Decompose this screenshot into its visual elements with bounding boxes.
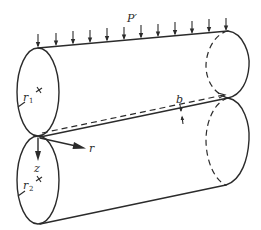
bottom-cylinder-right-face-visible bbox=[226, 98, 249, 185]
bottom-cylinder bbox=[17, 98, 249, 224]
bottom-cylinder-bottom-edge bbox=[40, 185, 226, 224]
load-arrow bbox=[122, 27, 126, 40]
load-arrow bbox=[105, 28, 109, 42]
r1-center-cross-b bbox=[37, 87, 41, 93]
top-cylinder-right-face-hidden bbox=[206, 31, 228, 98]
coordinate-axes: z r bbox=[33, 138, 95, 175]
load-arrow bbox=[190, 21, 194, 34]
contact-line bbox=[40, 98, 228, 137]
label-load: P′ bbox=[126, 12, 137, 25]
radius-r1-marker: r 1 bbox=[18, 87, 42, 107]
load-arrow bbox=[173, 22, 177, 36]
load-arrow bbox=[156, 24, 160, 37]
z-axis-arrowhead bbox=[35, 151, 41, 161]
r-axis-line bbox=[40, 138, 76, 146]
top-cylinder-right-face-visible bbox=[228, 31, 249, 98]
label-b: b bbox=[176, 93, 183, 106]
load-arrow bbox=[139, 25, 143, 39]
label-r: r bbox=[89, 142, 95, 155]
top-cylinder-top-edge bbox=[38, 31, 228, 48]
label-r1-sub: 1 bbox=[29, 97, 33, 105]
load-arrow bbox=[88, 30, 92, 43]
radius-r2-marker: r 2 bbox=[18, 176, 42, 196]
r2-center-cross-b bbox=[37, 176, 41, 182]
r-axis-arrowhead bbox=[73, 142, 87, 149]
contact-cylinders-diagram: b P′ bbox=[0, 0, 261, 230]
load-arrow bbox=[71, 31, 75, 45]
load-arrow bbox=[207, 19, 211, 33]
distributed-load: P′ bbox=[36, 12, 228, 48]
b-marker-upper-head bbox=[179, 108, 182, 112]
contact-zone bbox=[40, 93, 228, 137]
label-r2-sub: 2 bbox=[29, 185, 33, 193]
b-marker-lower-head bbox=[181, 116, 185, 121]
bottom-cylinder-right-face-hidden bbox=[206, 98, 228, 185]
load-arrow bbox=[36, 34, 40, 48]
load-arrow bbox=[54, 33, 58, 46]
top-cylinder bbox=[17, 31, 249, 136]
load-arrow bbox=[224, 18, 228, 31]
label-z: z bbox=[33, 162, 40, 175]
contact-line-offset bbox=[42, 95, 224, 133]
